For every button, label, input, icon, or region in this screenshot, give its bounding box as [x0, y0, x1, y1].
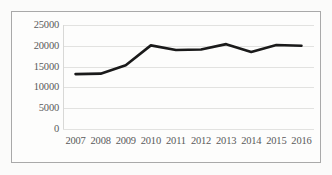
- y-tick-label-25000: 25000: [34, 20, 59, 30]
- chart-screenshot: 0500010000150002000025000 20072008200920…: [0, 0, 332, 175]
- x-tick-label-2014: 2014: [239, 134, 264, 147]
- x-axis-tick-labels: 2007200820092010201120122013201420152016: [63, 134, 314, 150]
- x-tick-label-2010: 2010: [138, 134, 163, 147]
- x-tick-label-2016: 2016: [289, 134, 314, 147]
- y-tick-label-10000: 10000: [34, 82, 59, 92]
- y-axis-tick-labels: 0500010000150002000025000: [16, 25, 59, 129]
- y-tick-label-20000: 20000: [34, 41, 59, 51]
- line-series-path: [76, 44, 302, 74]
- plot-area: [63, 25, 314, 129]
- x-tick-label-2008: 2008: [88, 134, 113, 147]
- y-tick-label-15000: 15000: [34, 62, 59, 72]
- x-tick-label-2015: 2015: [264, 134, 289, 147]
- x-tick-label-2009: 2009: [113, 134, 138, 147]
- chart-frame: 0500010000150002000025000 20072008200920…: [11, 11, 321, 163]
- line-series-svg: [63, 25, 314, 129]
- x-tick-label-2012: 2012: [189, 134, 214, 147]
- x-tick-label-2007: 2007: [63, 134, 88, 147]
- x-tick-label-2013: 2013: [214, 134, 239, 147]
- gridline-0: [63, 129, 314, 130]
- y-tick-label-5000: 5000: [39, 103, 59, 113]
- x-tick-label-2011: 2011: [163, 134, 188, 147]
- y-tick-label-0: 0: [54, 124, 59, 134]
